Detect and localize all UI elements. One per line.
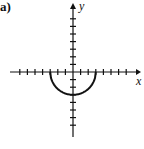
coordinate-plot — [0, 0, 144, 149]
axes — [10, 3, 141, 137]
